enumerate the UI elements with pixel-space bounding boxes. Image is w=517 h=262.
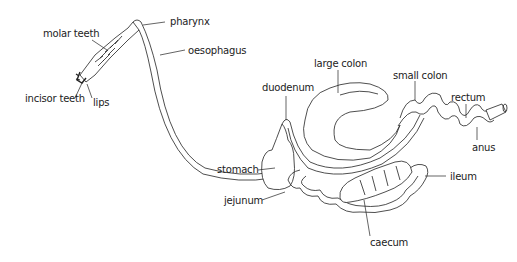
label-molar-teeth: molar teeth [43,28,99,39]
diagram-drawing [0,0,517,262]
label-stomach: stomach [217,164,259,175]
leader-lines [75,22,477,236]
label-incisor-teeth: incisor teeth [25,93,85,104]
label-rectum: rectum [451,92,485,103]
digestive-tract-diagram: molar teeth incisor teeth lips pharynx o… [0,0,517,262]
label-anus: anus [472,142,495,153]
label-large-colon: large colon [314,58,367,69]
large-colon-shape [304,83,400,161]
label-duodenum: duodenum [262,82,314,93]
label-pharynx: pharynx [170,16,210,27]
label-oesophagus: oesophagus [188,45,246,56]
label-ileum: ileum [450,171,477,182]
label-caecum: caecum [370,237,408,248]
label-lips: lips [93,97,109,108]
label-jejunum: jejunum [224,195,263,206]
label-small-colon: small colon [393,70,447,81]
